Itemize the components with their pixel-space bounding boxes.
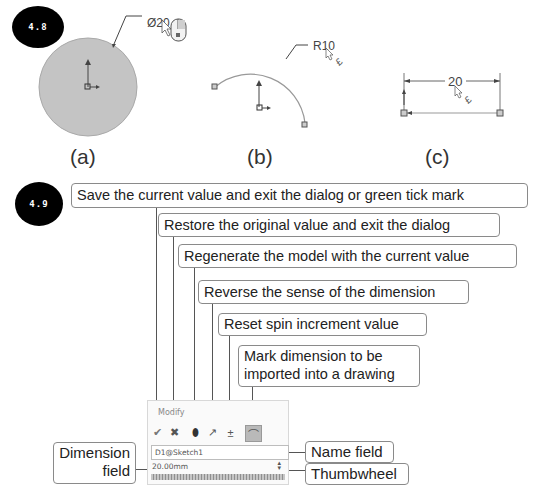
mark-for-drawing-button[interactable]: ⌒ (245, 425, 262, 442)
svg-text:£: £ (333, 56, 345, 68)
leader-restore (173, 237, 174, 418)
ok-button[interactable]: ✔ (150, 425, 165, 440)
caption-c: (c) (425, 145, 450, 169)
reset-spin-button[interactable]: ± (223, 425, 238, 440)
callout-restore: Restore the original value and exit the … (158, 213, 500, 237)
leader-name-field (288, 452, 305, 453)
plus-minus-icon: ± (227, 427, 233, 439)
dimension-value: 20.00mm (152, 462, 188, 471)
callout-save: Save the current value and exit the dial… (71, 183, 528, 208)
name-field[interactable]: D1@Sketch1 (151, 445, 289, 460)
circle-sketch: Ø20 (39, 16, 186, 136)
leader-regenerate (194, 268, 195, 418)
caption-b: (b) (247, 145, 273, 169)
leader-save (156, 208, 157, 418)
reverse-arrow-icon: ↗ (208, 426, 217, 439)
callout-thumbwheel: Thumbwheel (305, 463, 409, 485)
callout-mark: Mark dimension to be imported into a dra… (238, 345, 420, 387)
rebuild-button[interactable]: ⬮ (188, 425, 203, 440)
radius-label: R10 (313, 39, 335, 53)
dialog-title: Modify (158, 408, 185, 417)
leader-thumbwheel (288, 470, 305, 471)
callout-dimension-field: Dimension field (53, 442, 136, 484)
line-sketch: 20 £ (401, 73, 503, 116)
x-icon: ✖ (170, 426, 179, 439)
callout-regenerate: Regenerate the model with the current va… (178, 244, 517, 268)
thumbwheel[interactable] (151, 474, 285, 480)
reverse-dimension-button[interactable]: ↗ (205, 425, 220, 440)
traffic-light-icon: ⬮ (192, 426, 199, 439)
spin-arrows-icon[interactable]: ▴▾ (277, 461, 281, 471)
svg-text:£: £ (462, 94, 474, 106)
modify-dialog: Modify ✔ ✖ ⬮ ↗ ± ⌒ D1@Sketch1 20.00mm ▴▾ (147, 400, 289, 485)
check-icon: ✔ (153, 426, 162, 439)
arc-sketch: R10 £ (212, 39, 345, 127)
callout-reset: Reset spin increment value (218, 313, 427, 336)
figure-badge-4-9: 4.9 (15, 182, 63, 226)
caption-a: (a) (70, 145, 96, 169)
callout-reverse: Reverse the sense of the dimension (198, 280, 469, 304)
dimension-field[interactable]: 20.00mm ▴▾ (151, 461, 285, 472)
cancel-button[interactable]: ✖ (167, 425, 182, 440)
dimension-mark-icon: ⌒ (248, 426, 259, 442)
callout-name-field: Name field (305, 441, 394, 463)
